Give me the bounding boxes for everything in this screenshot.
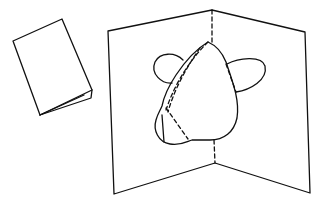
popup-card-diagram: Line drawing of a pop-up card: a closed … (0, 0, 314, 200)
closed-card (13, 19, 92, 115)
popup-head (154, 42, 266, 145)
head-outline (155, 42, 238, 145)
diagram-svg (0, 0, 314, 200)
right-ear (227, 59, 265, 92)
open-card (108, 10, 310, 194)
left-ear (154, 54, 183, 83)
